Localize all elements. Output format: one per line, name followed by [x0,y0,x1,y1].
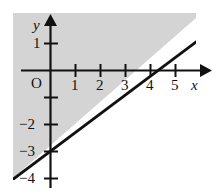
y-tick-label-minus2: −2 [19,117,35,132]
x-tick-label-3: 3 [121,78,129,93]
origin-label: O [31,76,42,91]
x-tick-label-2: 2 [96,78,104,93]
y-tick-label-1: 1 [33,36,41,51]
y-axis-label: y [33,18,40,33]
y-tick-label-minus4: −4 [19,171,35,186]
x-tick-label-1: 1 [71,78,79,93]
x-axis-label: x [191,78,198,93]
x-tick-label-5: 5 [171,78,179,93]
graph-figure: y x O 1 −2 −3 −4 1 2 3 4 5 [0,0,219,196]
x-tick-label-4: 4 [146,78,154,93]
y-tick-label-minus3: −3 [19,144,35,159]
